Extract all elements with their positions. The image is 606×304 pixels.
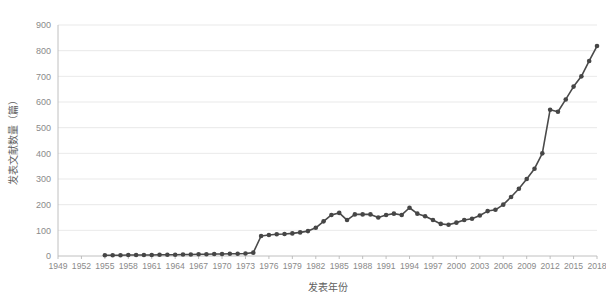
data-point-1980 (298, 230, 303, 235)
data-point-1955 (103, 253, 108, 258)
data-point-1967 (196, 252, 201, 257)
data-point-1959 (134, 253, 139, 258)
data-point-1965 (181, 252, 186, 257)
data-point-2009 (524, 177, 529, 182)
x-tick-label-1988: 1988 (353, 261, 372, 271)
y-axis-tick-labels: 0100200300400500600700800900 (36, 20, 51, 261)
x-tick-label-1958: 1958 (119, 261, 138, 271)
data-point-1961 (149, 253, 154, 258)
data-point-1968 (204, 252, 209, 257)
x-tick-label-2015: 2015 (564, 261, 583, 271)
axis-lines-group (58, 25, 597, 259)
data-point-1989 (368, 212, 373, 217)
x-tick-label-1979: 1979 (283, 261, 302, 271)
data-point-2010 (532, 166, 537, 171)
y-axis-title: 发表文献数量（篇） (7, 95, 19, 185)
data-point-2011 (540, 151, 545, 156)
x-tick-label-1967: 1967 (189, 261, 208, 271)
x-tick-label-1991: 1991 (377, 261, 396, 271)
data-point-1960 (142, 253, 147, 258)
data-point-1998 (438, 222, 443, 227)
data-point-1992 (392, 211, 397, 216)
data-point-1994 (407, 205, 412, 210)
x-tick-label-1997: 1997 (423, 261, 442, 271)
data-point-1970 (220, 252, 225, 257)
x-tick-label-2018: 2018 (587, 261, 606, 271)
y-tick-label-200: 200 (36, 200, 51, 210)
data-point-2015 (571, 84, 576, 89)
data-series-group (103, 44, 600, 258)
data-point-1975 (259, 234, 264, 239)
data-point-2008 (517, 186, 522, 191)
x-axis-title: 发表年份 (308, 281, 348, 293)
data-point-2002 (470, 216, 475, 221)
x-tick-label-1994: 1994 (400, 261, 419, 271)
x-tick-label-2012: 2012 (541, 261, 560, 271)
data-point-1969 (212, 252, 217, 257)
data-point-1985 (337, 211, 342, 216)
x-tick-label-1952: 1952 (72, 261, 91, 271)
x-tick-label-1976: 1976 (259, 261, 278, 271)
data-point-1956 (110, 253, 115, 258)
data-point-2007 (509, 195, 514, 200)
y-tick-label-700: 700 (36, 72, 51, 82)
x-tick-label-2006: 2006 (494, 261, 513, 271)
data-point-1984 (329, 213, 334, 218)
data-point-1981 (306, 229, 311, 234)
data-point-2005 (493, 208, 498, 213)
data-point-1971 (228, 251, 233, 256)
data-point-1988 (360, 212, 365, 217)
chart-container: 0100200300400500600700800900 19491952195… (0, 0, 606, 304)
y-tick-label-800: 800 (36, 46, 51, 56)
x-tick-label-1955: 1955 (95, 261, 114, 271)
data-point-1973 (243, 251, 248, 256)
y-tick-label-400: 400 (36, 149, 51, 159)
y-tick-label-300: 300 (36, 174, 51, 184)
data-point-1987 (353, 212, 358, 217)
data-point-1963 (165, 252, 170, 257)
data-point-1966 (189, 252, 194, 257)
x-tick-label-1949: 1949 (48, 261, 67, 271)
data-point-1964 (173, 252, 178, 257)
x-tick-label-1985: 1985 (330, 261, 349, 271)
data-point-1962 (157, 252, 162, 257)
data-point-1995 (415, 211, 420, 216)
data-point-2003 (478, 213, 483, 218)
data-point-1996 (423, 214, 428, 219)
gridlines-group (58, 25, 597, 230)
data-point-1997 (431, 218, 436, 223)
data-point-1993 (399, 213, 404, 218)
data-point-1976 (267, 233, 272, 238)
data-point-1990 (376, 215, 381, 220)
x-tick-label-1961: 1961 (142, 261, 161, 271)
data-point-1972 (235, 251, 240, 256)
x-tick-label-2000: 2000 (447, 261, 466, 271)
data-point-2000 (454, 220, 459, 225)
y-tick-label-0: 0 (46, 251, 51, 261)
y-tick-label-100: 100 (36, 226, 51, 236)
data-point-1977 (274, 232, 279, 237)
data-point-2017 (587, 59, 592, 64)
x-tick-label-1973: 1973 (236, 261, 255, 271)
data-point-2001 (462, 218, 467, 223)
data-point-1991 (384, 213, 389, 218)
data-point-1958 (126, 253, 131, 258)
data-point-1999 (446, 222, 451, 227)
data-point-2016 (579, 74, 584, 79)
y-tick-label-600: 600 (36, 97, 51, 107)
data-point-2012 (548, 107, 553, 112)
data-point-2004 (485, 209, 490, 214)
data-point-2013 (556, 109, 561, 114)
x-tick-label-2003: 2003 (470, 261, 489, 271)
data-point-2018 (595, 44, 600, 49)
data-point-1986 (345, 218, 350, 223)
data-point-1983 (321, 219, 326, 224)
data-point-1957 (118, 253, 123, 258)
series-line-path (105, 46, 597, 255)
y-tick-label-900: 900 (36, 20, 51, 30)
y-tick-label-500: 500 (36, 123, 51, 133)
data-point-1974 (251, 250, 256, 255)
data-point-1978 (282, 232, 287, 237)
x-tick-label-1970: 1970 (212, 261, 231, 271)
data-point-1982 (313, 225, 318, 230)
